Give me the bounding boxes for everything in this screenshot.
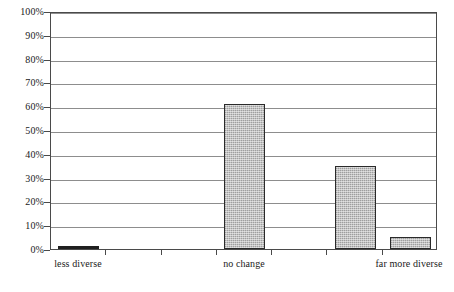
bar (224, 104, 265, 249)
y-axis-tick-label: 0% (0, 245, 44, 255)
x-axis-tick-mark (326, 250, 327, 255)
bar (58, 246, 99, 249)
y-axis-tick-mark (44, 250, 50, 251)
y-axis-tick-label: 100% (0, 7, 44, 17)
y-axis-tick-label: 20% (0, 197, 44, 207)
x-axis-tick-mark (216, 250, 217, 255)
x-axis-tick-mark (161, 250, 162, 255)
x-axis-tick-label: far more diverse (375, 258, 442, 270)
x-axis-tick-mark (105, 250, 106, 255)
bar (335, 166, 376, 249)
y-axis-tick-label: 10% (0, 221, 44, 231)
bar (390, 237, 431, 249)
x-axis-tick-label: no change (223, 258, 265, 270)
x-axis-tick-mark (271, 250, 272, 255)
bar-chart-figure: 0%10%20%30%40%50%60%70%80%90%100% less d… (0, 0, 454, 292)
y-axis-tick-label: 90% (0, 31, 44, 41)
y-axis-tick-label: 50% (0, 126, 44, 136)
gridline (51, 84, 436, 85)
y-axis-tick-label: 60% (0, 102, 44, 112)
gridline (51, 37, 436, 38)
y-axis-tick-label: 40% (0, 150, 44, 160)
x-axis-tick-label: less diverse (54, 258, 102, 270)
gridline (51, 13, 436, 14)
y-axis-tick-label: 80% (0, 55, 44, 65)
x-axis: less diverseno changefar more diverse (0, 258, 454, 278)
gridline (51, 61, 436, 62)
y-axis-tick-label: 70% (0, 78, 44, 88)
plot-area (50, 12, 437, 250)
y-axis-tick-label: 30% (0, 174, 44, 184)
x-axis-tick-mark (382, 250, 383, 255)
